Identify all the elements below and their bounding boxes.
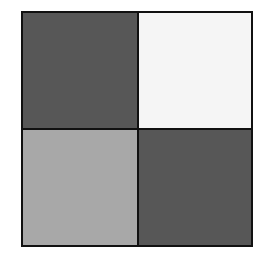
cell-bottom-right (139, 130, 251, 245)
cell-top-right (139, 13, 251, 128)
cell-bottom-left (23, 130, 137, 245)
quadrant-grid (21, 11, 253, 247)
cell-top-left (23, 13, 137, 128)
